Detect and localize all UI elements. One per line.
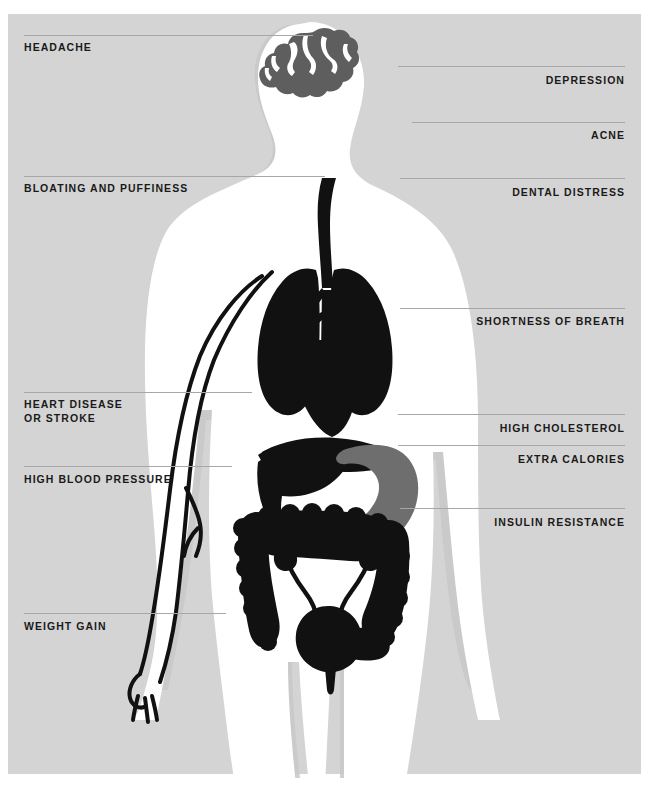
leader-line-shortness-of-breath — [400, 308, 625, 309]
leader-line-depression — [398, 66, 625, 67]
infographic-root: HEADACHE BLOATING AND PUFFINESS HEART DI… — [0, 0, 649, 791]
anatomy-figure — [0, 0, 649, 791]
leader-line-insulin-resistance — [400, 508, 625, 509]
leader-line-bloating-and-puffiness — [24, 176, 325, 177]
label-high-cholesterol: HIGH CHOLESTEROL — [500, 422, 625, 436]
leader-line-headache — [24, 35, 313, 36]
label-extra-calories: EXTRA CALORIES — [518, 453, 625, 467]
label-headache: HEADACHE — [24, 41, 92, 55]
leader-line-extra-calories — [398, 445, 625, 446]
leader-line-dental-distress — [400, 178, 625, 179]
label-bloating-and-puffiness: BLOATING AND PUFFINESS — [24, 182, 188, 196]
leader-line-weight-gain — [24, 613, 226, 614]
leader-line-acne — [412, 122, 625, 123]
label-weight-gain: WEIGHT GAIN — [24, 620, 107, 634]
label-depression: DEPRESSION — [546, 74, 625, 88]
label-high-blood-pressure: HIGH BLOOD PRESSURE — [24, 473, 172, 487]
label-shortness-of-breath: SHORTNESS OF BREATH — [476, 315, 625, 329]
label-acne: ACNE — [591, 129, 625, 143]
label-dental-distress: DENTAL DISTRESS — [512, 186, 625, 200]
leader-line-high-cholesterol — [398, 414, 625, 415]
leader-line-heart-disease-or-stroke — [24, 392, 252, 393]
leader-line-high-blood-pressure — [24, 466, 232, 467]
label-insulin-resistance: INSULIN RESISTANCE — [494, 516, 625, 530]
label-heart-disease-or-stroke: HEART DISEASE OR STROKE — [24, 398, 123, 425]
